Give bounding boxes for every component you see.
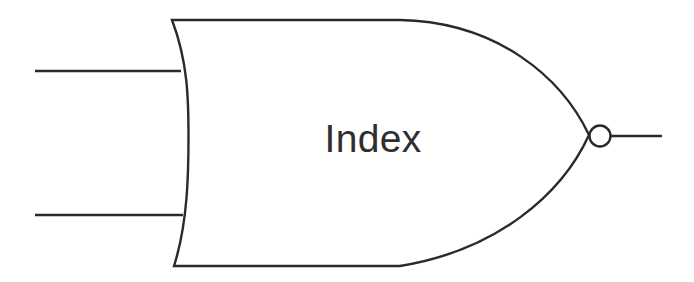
inversion-bubble-icon [590, 126, 611, 147]
gate-drawing-surface: Index [0, 0, 694, 282]
gate-label: Index [325, 117, 422, 160]
logic-gate-diagram: Index [0, 0, 694, 282]
